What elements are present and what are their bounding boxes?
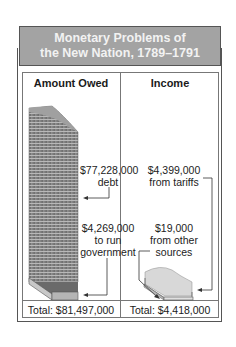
debt-amount: $77,228,000 (80, 164, 136, 176)
income-total: Total: $4,418,000 (121, 304, 219, 316)
chart-title: Monetary Problems of the New Nation, 178… (19, 26, 221, 66)
government-description-2: government (80, 246, 136, 258)
debt-label: $77,228,000 debt (80, 164, 136, 188)
other-sources-amount: $19,000 (143, 222, 205, 234)
debt-description: debt (80, 176, 136, 188)
amount-owed-total: Total: $81,497,000 (22, 304, 120, 316)
government-amount: $4,269,000 (80, 222, 136, 234)
other-sources-label: $19,000 from other sources (143, 222, 205, 258)
tariffs-label: $4,399,000 from tariffs (143, 164, 205, 188)
other-sources-description-1: from other (143, 234, 205, 246)
title-line-1: Monetary Problems of (20, 31, 220, 46)
other-sources-description-2: sources (143, 246, 205, 258)
tariffs-description: from tariffs (143, 176, 205, 188)
debt-money-stack-icon (29, 106, 78, 300)
income-money-stack-icon (144, 267, 193, 300)
tariffs-amount: $4,399,000 (143, 164, 205, 176)
government-description-1: to run (80, 234, 136, 246)
government-label: $4,269,000 to run government (80, 222, 136, 258)
title-line-2: the New Nation, 1789–1791 (20, 46, 220, 61)
